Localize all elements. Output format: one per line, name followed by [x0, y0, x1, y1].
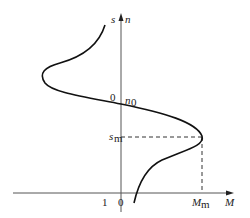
sm-subscript: m: [114, 132, 123, 144]
s-axis-label: s: [111, 13, 115, 25]
n-axis-label: n: [125, 13, 131, 25]
vertical-axis-arrow-icon: [119, 13, 124, 21]
torque-slip-diagram: s n 0 n 0 s m 1 0 M m M: [0, 0, 250, 218]
slip-one-label: 1: [102, 196, 108, 208]
origin-zero-horizontal-label: 0: [118, 196, 124, 208]
origin-zero-vertical-label: 0: [110, 91, 116, 103]
characteristic-curve: [42, 25, 202, 203]
horizontal-axis-arrow-icon: [226, 191, 234, 196]
sm-label: s: [109, 130, 113, 142]
Mm-subscript: m: [201, 198, 210, 210]
M-axis-label: M: [224, 196, 235, 208]
n0-subscript: 0: [131, 96, 137, 108]
